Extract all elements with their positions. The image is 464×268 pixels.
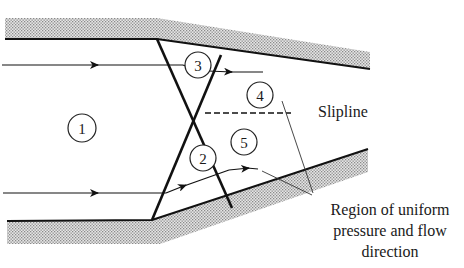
uniform-region-label-line3: direction bbox=[362, 243, 419, 260]
streamlines bbox=[2, 65, 263, 193]
region-5-label: 5 bbox=[231, 129, 257, 155]
uniform-region-label-line1: Region of uniform bbox=[330, 201, 450, 219]
svg-text:4: 4 bbox=[256, 88, 264, 104]
streamline-lower-2 bbox=[166, 185, 186, 193]
incident-shock-lower bbox=[152, 55, 221, 220]
region-1-label: 1 bbox=[68, 114, 96, 142]
streamline-upper-3b bbox=[208, 71, 232, 72]
svg-text:2: 2 bbox=[199, 151, 207, 167]
shock-intersection-diagram: 1 2 3 4 5 Slipline Region of uniform pre… bbox=[0, 0, 464, 268]
streamline-lower-5 bbox=[229, 168, 249, 170]
region-2-label: 2 bbox=[190, 145, 216, 171]
svg-text:3: 3 bbox=[194, 58, 202, 74]
streamline-lower-out bbox=[247, 168, 258, 169]
region-4-label: 4 bbox=[247, 82, 273, 108]
lower-wall-hatch bbox=[7, 149, 368, 244]
lower-wall bbox=[7, 149, 368, 244]
svg-text:5: 5 bbox=[240, 135, 248, 151]
uniform-region-label-line2: pressure and flow bbox=[333, 222, 447, 240]
region-3-label: 3 bbox=[185, 52, 211, 78]
svg-text:1: 1 bbox=[78, 121, 86, 137]
slipline-label: Slipline bbox=[318, 103, 368, 121]
